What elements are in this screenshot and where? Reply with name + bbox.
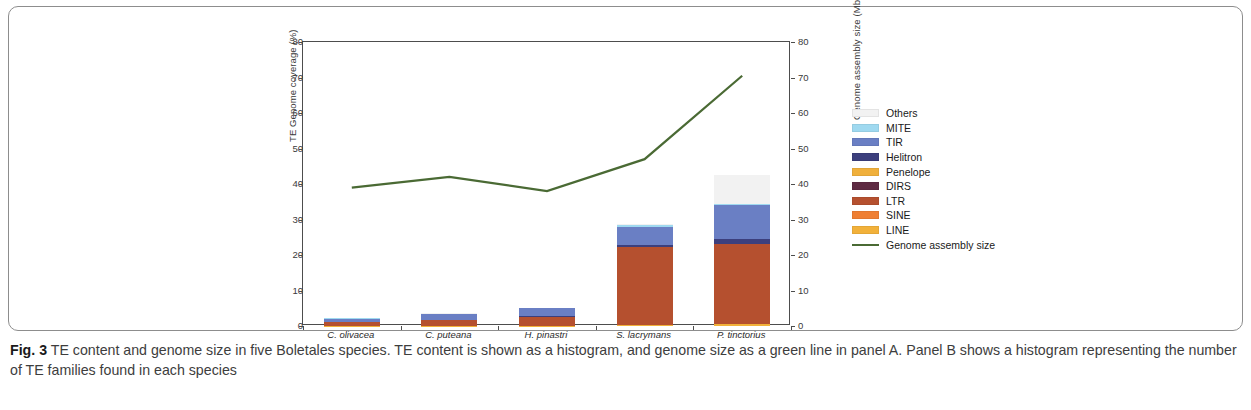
- legend-item: LINE: [852, 223, 1102, 238]
- y2-tick-mark: [791, 78, 795, 79]
- x-axis-label: H. pinastri: [525, 329, 568, 340]
- genome-size-polyline: [352, 76, 742, 191]
- bar-segment-ltr: [714, 244, 770, 324]
- legend-label: TIR: [886, 136, 903, 148]
- legend-label: Genome assembly size: [886, 239, 995, 251]
- y2-tick-label: 50: [798, 144, 824, 154]
- legend-item: LTR: [852, 194, 1102, 209]
- y2-tick-mark: [791, 42, 795, 43]
- bar-segment-helitron: [714, 239, 770, 243]
- legend-label: Others: [886, 107, 918, 119]
- y-tick-mark: [299, 42, 303, 43]
- legend-item: Helitron: [852, 150, 1102, 165]
- bar-segment-ltr: [421, 320, 477, 325]
- legend-item: Genome assembly size: [852, 237, 1102, 252]
- bar-segment-tir: [421, 314, 477, 320]
- bar-ptinctorius: [714, 175, 770, 326]
- caption-label: Fig. 3: [10, 342, 47, 358]
- y2-tick-mark: [791, 255, 795, 256]
- y-tick-mark: [299, 220, 303, 221]
- y2-tick-label: 10: [798, 286, 824, 296]
- legend-label: LTR: [886, 195, 905, 207]
- y-axis-title-right: Genome assembly size (Mb): [851, 0, 862, 120]
- y2-tick-mark: [791, 220, 795, 221]
- bar-segment-ltr: [324, 322, 380, 326]
- y-tick-mark: [299, 291, 303, 292]
- legend-swatch-icon: [852, 211, 879, 219]
- legend-item: MITE: [852, 121, 1102, 136]
- legend-swatch-icon: [852, 244, 879, 246]
- bar-segment-others: [617, 224, 673, 225]
- chart-plot-area: TE Genome coverage (%) Genome assembly s…: [302, 41, 790, 325]
- y2-tick-label: 60: [798, 108, 824, 118]
- bar-segment-tir: [617, 227, 673, 246]
- y2-tick-label: 20: [798, 250, 824, 260]
- legend-swatch-icon: [852, 182, 879, 190]
- legend-item: SINE: [852, 208, 1102, 223]
- bar-cputeana: [421, 313, 477, 326]
- legend-item: Penelope: [852, 164, 1102, 179]
- y2-tick-mark: [791, 184, 795, 185]
- bar-segment-line: [617, 325, 673, 326]
- legend-label: SINE: [886, 209, 911, 221]
- x-axis-label: C. puteana: [425, 329, 471, 340]
- bar-segment-helitron: [617, 245, 673, 246]
- y-tick-mark: [299, 78, 303, 79]
- bar-segment-tir: [714, 205, 770, 239]
- y-tick-mark: [299, 149, 303, 150]
- chart-legend: OthersMITETIRHelitronPenelopeDIRSLTRSINE…: [852, 106, 1102, 252]
- bar-segment-tir: [324, 319, 380, 322]
- y2-tick-label: 80: [798, 37, 824, 47]
- y2-tick-mark: [791, 113, 795, 114]
- y2-tick-label: 70: [798, 73, 824, 83]
- legend-label: Helitron: [886, 151, 922, 163]
- legend-label: Penelope: [886, 166, 930, 178]
- bar-colivacea: [324, 318, 380, 326]
- bar-segment-line: [714, 324, 770, 326]
- bar-segment-tir: [519, 308, 575, 316]
- legend-item: Others: [852, 106, 1102, 121]
- legend-swatch-icon: [852, 168, 879, 176]
- y2-tick-label: 40: [798, 179, 824, 189]
- legend-swatch-icon: [852, 138, 879, 146]
- legend-swatch-icon: [852, 109, 879, 117]
- y-tick-mark: [299, 113, 303, 114]
- caption-text: TE content and genome size in five Bolet…: [10, 342, 1237, 378]
- figure-caption: Fig. 3 TE content and genome size in fiv…: [10, 340, 1242, 380]
- legend-item: DIRS: [852, 179, 1102, 194]
- legend-swatch-icon: [852, 124, 879, 132]
- x-axis-label: C. olivacea: [327, 329, 374, 340]
- bars-layer: [303, 42, 791, 326]
- bar-hpinastri: [519, 308, 575, 326]
- y-axis-right-ticks: 01020304050607080: [791, 42, 829, 326]
- y2-tick-mark: [791, 291, 795, 292]
- y2-tick-label: 0: [798, 321, 824, 331]
- x-axis-label: P. tinctorius: [717, 329, 765, 340]
- bar-slacrymans: [617, 224, 673, 326]
- bar-segment-mite: [617, 225, 673, 227]
- y-tick-mark: [299, 255, 303, 256]
- bar-segment-ltr: [519, 317, 575, 326]
- legend-swatch-icon: [852, 153, 879, 161]
- bar-segment-mite: [714, 204, 770, 205]
- legend-label: MITE: [886, 122, 911, 134]
- figure-panel: TE Genome coverage (%) Genome assembly s…: [8, 6, 1243, 331]
- legend-label: DIRS: [886, 180, 911, 192]
- y-axis-left-ticks: 01020304050607080: [269, 42, 303, 326]
- genome-assembly-size-line: [303, 42, 791, 326]
- y2-tick-label: 30: [798, 215, 824, 225]
- x-tick-mark: [791, 326, 792, 330]
- x-axis-label: S. lacrymans: [616, 329, 671, 340]
- legend-label: LINE: [886, 224, 909, 236]
- bar-segment-ltr: [617, 247, 673, 325]
- bar-segment-others: [714, 175, 770, 204]
- y2-tick-mark: [791, 149, 795, 150]
- legend-swatch-icon: [852, 226, 879, 234]
- y-tick-mark: [299, 184, 303, 185]
- legend-swatch-icon: [852, 197, 879, 205]
- legend-item: TIR: [852, 135, 1102, 150]
